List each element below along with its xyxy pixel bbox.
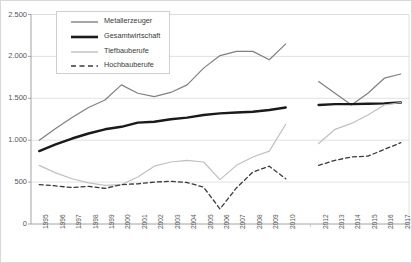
legend-label-hochbauberufe: Hochbauberufe — [104, 60, 154, 69]
y-tick-label: 1.500 — [1, 93, 27, 102]
x-tick-label: 1996 — [59, 214, 66, 229]
legend-label-metallerzeuger: Metallerzeuger — [104, 16, 152, 25]
y-tick-label: 2.000 — [1, 51, 27, 60]
legend-swatch-gesamtwirtschaft — [71, 29, 98, 44]
legend-item-hochbauberufe: Hochbauberufe — [57, 58, 171, 73]
legend-item-tiefbauberufe: Tiefbauberufe — [57, 44, 171, 59]
x-tick-label: 2003 — [174, 214, 181, 229]
x-tick-label: 2014 — [354, 214, 361, 229]
x-tick-label: 2016 — [387, 214, 394, 229]
x-tick-label: 2001 — [141, 214, 148, 229]
legend-item-metallerzeuger: Metallerzeuger — [57, 14, 171, 29]
legend-swatch-hochbauberufe — [71, 58, 98, 73]
x-tick-label: 2015 — [371, 214, 378, 229]
y-tick-label: 1.000 — [1, 135, 27, 144]
y-tick-label: 0 — [1, 219, 27, 228]
legend-swatch-tiefbauberufe — [71, 44, 98, 59]
x-tick-label: 2017 — [404, 214, 411, 229]
x-tick-label: 1997 — [75, 214, 82, 229]
x-tick-label: 2010 — [289, 214, 296, 229]
y-tick-label: 500 — [1, 177, 27, 186]
x-tick-label: 2005 — [207, 214, 214, 229]
x-tick-label: 1999 — [108, 214, 115, 229]
chart-frame: 05001.0001.5002.0002.500 199519961997199… — [0, 0, 412, 263]
x-tick-label: 1995 — [42, 214, 49, 229]
x-tick-label: 2013 — [338, 214, 345, 229]
legend-label-gesamtwirtschaft: Gesamtwirtschaft — [104, 31, 160, 40]
y-tick-label: 2.500 — [1, 10, 27, 19]
x-tick-label: 1998 — [92, 214, 99, 229]
x-tick-label: 2007 — [239, 214, 246, 229]
legend-swatch-metallerzeuger — [71, 14, 98, 29]
legend-item-gesamtwirtschaft: Gesamtwirtschaft — [57, 29, 171, 44]
x-tick-label: 2006 — [223, 214, 230, 229]
x-tick-label: 2008 — [256, 214, 263, 229]
x-tick-label: 2000 — [124, 214, 131, 229]
x-tick-label: 2009 — [272, 214, 279, 229]
chart-legend: Metallerzeuger Gesamtwirtschaft Tiefbaub… — [56, 11, 170, 74]
x-tick-label: 2002 — [157, 214, 164, 229]
x-tick-label: 2004 — [190, 214, 197, 229]
x-tick-label: 2012 — [322, 214, 329, 229]
legend-label-tiefbauberufe: Tiefbauberufe — [104, 46, 149, 55]
